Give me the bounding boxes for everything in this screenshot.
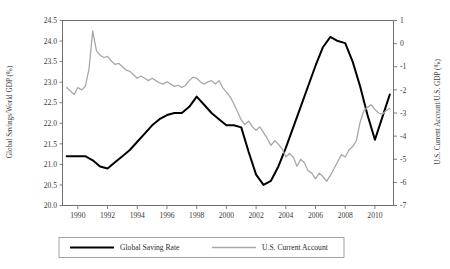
legend-label-1: U.S. Current Account xyxy=(262,243,329,252)
y-tick-label: 22.5 xyxy=(44,98,57,107)
y-axis-title: Global Savings/World GDP (%) xyxy=(6,65,14,158)
y-tick-label: 20.0 xyxy=(44,201,57,210)
x-tick-label: 2006 xyxy=(308,211,323,220)
line-chart: Global Savings/World GDP (%) U.S. Curren… xyxy=(0,0,450,269)
chart-figure: Global Savings/World GDP (%) U.S. Curren… xyxy=(0,0,450,269)
y-tick-label: 21.0 xyxy=(44,160,57,169)
y2-tick-label: -3 xyxy=(400,109,407,118)
y2-tick-label: -7 xyxy=(400,201,407,210)
y-tick-label: 20.5 xyxy=(44,181,57,190)
plot-frame xyxy=(63,21,394,206)
x-tick-label: 1994 xyxy=(130,211,145,220)
x-axis-ticks: 1990199219941996199820002002200420062008… xyxy=(70,206,382,221)
x-tick-label: 1992 xyxy=(100,211,115,220)
x-tick-label: 1996 xyxy=(159,211,174,220)
x-tick-label: 2010 xyxy=(367,211,382,220)
y2-tick-label: 1 xyxy=(400,16,404,25)
y2-axis-ticks: -7-6-5-4-3-2-101 xyxy=(394,16,407,210)
y-tick-label: 24.0 xyxy=(44,37,57,46)
x-tick-label: 2002 xyxy=(249,211,264,220)
y-tick-label: 21.5 xyxy=(44,140,57,149)
y2-tick-label: 0 xyxy=(400,39,404,48)
series-line-1 xyxy=(67,31,390,181)
y2-axis-title: U.S. Current Account/U.S. GDP (%) xyxy=(434,59,442,165)
series-lines xyxy=(67,31,390,185)
x-tick-label: 2004 xyxy=(278,211,293,220)
legend-label-0: Global Saving Rate xyxy=(120,243,180,252)
x-tick-label: 2008 xyxy=(338,211,353,220)
y2-tick-label: -1 xyxy=(400,62,407,71)
x-tick-label: 2000 xyxy=(219,211,234,220)
y-tick-label: 23.0 xyxy=(44,78,57,87)
y-tick-label: 22.0 xyxy=(44,119,57,128)
x-tick-label: 1990 xyxy=(70,211,85,220)
y-tick-label: 23.5 xyxy=(44,57,57,66)
y2-tick-label: -2 xyxy=(400,86,407,95)
y2-tick-label: -4 xyxy=(400,132,407,141)
y-axis-ticks: 20.020.521.021.522.022.523.023.524.024.5 xyxy=(44,16,63,210)
y-tick-label: 24.5 xyxy=(44,16,57,25)
y2-tick-label: -6 xyxy=(400,178,407,187)
x-tick-label: 1998 xyxy=(189,211,204,220)
y2-tick-label: -5 xyxy=(400,155,407,164)
chart-legend: Global Saving RateU.S. Current Account xyxy=(59,238,344,258)
series-line-0 xyxy=(67,37,390,185)
